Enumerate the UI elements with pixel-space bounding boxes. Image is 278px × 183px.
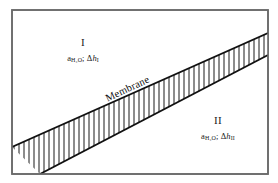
region-ii-roman: II bbox=[178, 114, 258, 128]
region-ii-head-subscript: II bbox=[231, 135, 235, 141]
region-ii-separator: ; bbox=[216, 131, 218, 141]
region-i-separator: ; bbox=[82, 53, 84, 63]
region-ii-activity-subscript: H₂O bbox=[205, 135, 216, 141]
region-label-ii: II aH₂O; ΔhII bbox=[178, 114, 258, 143]
membrane-diagram: I aH₂O; ΔhI II aH₂O; ΔhII Membrane bbox=[0, 0, 278, 183]
region-ii-activity: aH₂O; ΔhII bbox=[178, 131, 258, 143]
region-label-i: I aH₂O; ΔhI bbox=[44, 36, 122, 65]
region-i-activity-subscript: H₂O bbox=[71, 57, 82, 63]
region-i-head-subscript: I bbox=[97, 57, 99, 63]
diagram-canvas bbox=[0, 0, 278, 183]
region-i-activity: aH₂O; ΔhI bbox=[44, 53, 122, 65]
region-i-roman: I bbox=[44, 36, 122, 50]
